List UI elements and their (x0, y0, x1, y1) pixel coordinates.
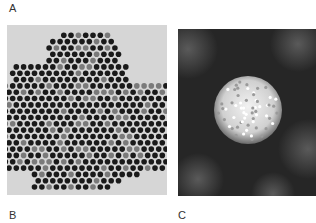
panel-label-b: B (9, 210, 16, 221)
panel-label-c: C (178, 210, 186, 221)
nanoparticle-lattice-image (7, 25, 167, 195)
single-particle-image (178, 29, 316, 196)
micrograph-panel-particle (178, 29, 316, 196)
panel-label-a: A (9, 3, 16, 14)
micrograph-panel-lattice (7, 25, 167, 195)
